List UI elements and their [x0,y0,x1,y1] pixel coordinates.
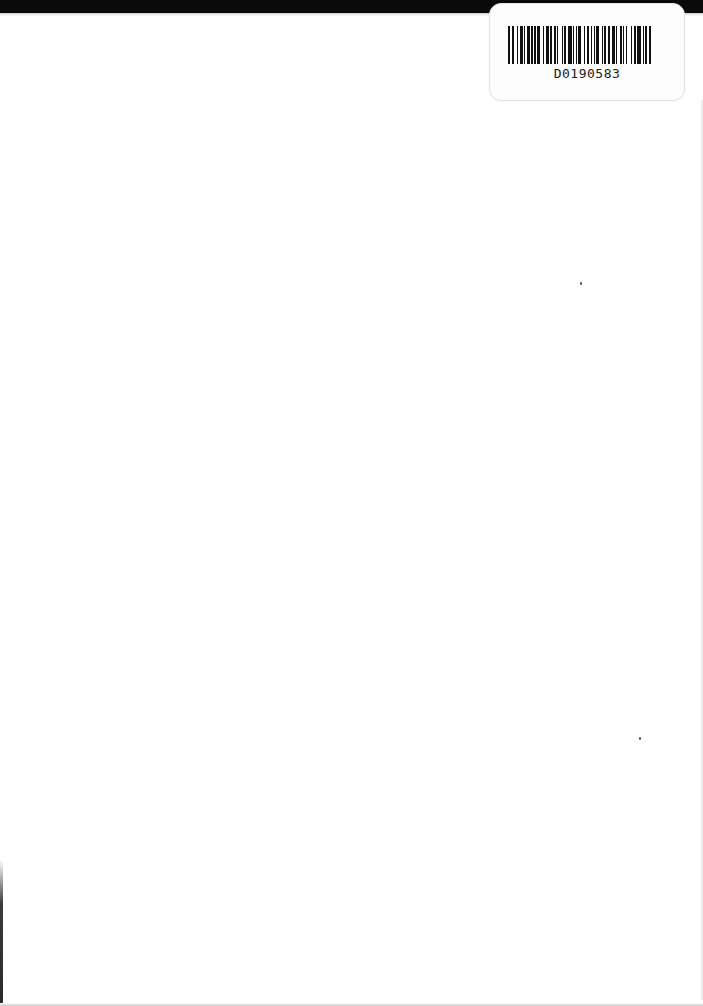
barcode-gap [651,26,653,64]
dust-speck [639,737,641,740]
barcode-number: D0190583 [490,66,684,81]
dust-speck [580,282,582,285]
barcode-icon [508,26,654,64]
scan-left-edge [0,860,3,1006]
barcode-label: D0190583 [489,3,685,101]
blank-page [0,13,703,1006]
